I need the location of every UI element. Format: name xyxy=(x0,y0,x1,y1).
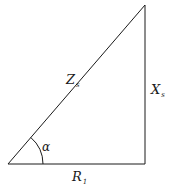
angle-label: α xyxy=(42,141,50,153)
base-label-main: R xyxy=(72,169,82,184)
hypotenuse-label-main: Z xyxy=(66,72,75,87)
vertical-side-label: Xs xyxy=(151,83,165,99)
vertical-side-label-sub: s xyxy=(161,91,165,99)
angle-label-main: α xyxy=(42,140,50,154)
hypotenuse-label: Zs xyxy=(66,73,80,89)
hypotenuse-label-sub: s xyxy=(76,81,80,89)
base-label: R1 xyxy=(72,170,87,186)
base-label-sub: 1 xyxy=(83,178,87,186)
impedance-triangle xyxy=(0,0,172,190)
vertical-side-label-main: X xyxy=(151,82,160,97)
